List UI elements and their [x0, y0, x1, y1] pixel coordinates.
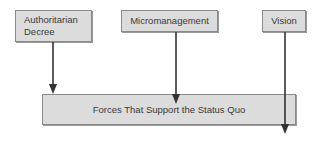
authoritarian-decree-box: Authoritarian Decree	[15, 10, 92, 42]
vision-label: Vision	[271, 15, 297, 27]
status-quo-forces-label: Forces That Support the Status Quo	[93, 104, 245, 116]
micromanagement-label: Micromanagement	[130, 15, 209, 27]
micromanagement-box: Micromanagement	[121, 10, 218, 32]
status-quo-forces-box: Forces That Support the Status Quo	[42, 94, 296, 125]
authoritarian-decree-label-line2: Decree	[24, 26, 91, 38]
arrow-authoritarian-decree	[49, 42, 57, 94]
authoritarian-decree-label-line1: Authoritarian	[24, 14, 91, 26]
vision-box: Vision	[262, 10, 306, 32]
